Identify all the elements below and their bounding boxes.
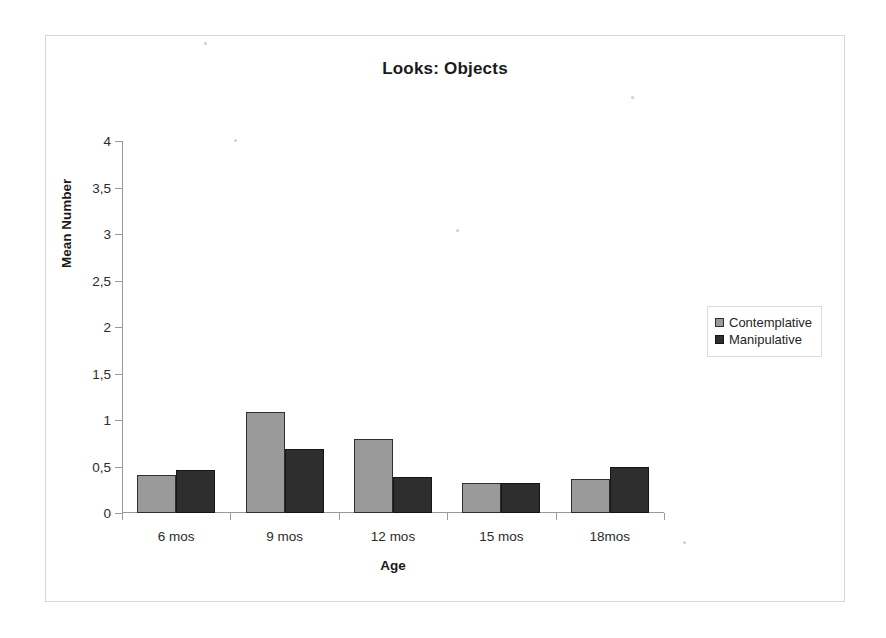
scan-speckle [204, 42, 207, 45]
x-axis-tick-label: 12 mos [371, 529, 415, 544]
y-axis-tick [115, 327, 122, 328]
bar [571, 479, 610, 513]
y-axis-tick-label: 1,5 [92, 366, 111, 381]
legend: ContemplativeManipulative [707, 306, 822, 357]
x-axis-tick [230, 513, 231, 520]
y-axis-tick [115, 281, 122, 282]
bar [246, 412, 285, 513]
scan-speckle [631, 96, 634, 99]
bar [501, 483, 540, 513]
y-axis-tick [115, 467, 122, 468]
legend-label: Manipulative [729, 332, 802, 347]
x-axis-tick [122, 513, 123, 520]
chart-title: Looks: Objects [46, 59, 844, 79]
y-axis-tick-label: 1 [103, 413, 111, 428]
x-axis-tick-label: 9 mos [266, 529, 303, 544]
y-axis-title: Mean Number [59, 179, 74, 268]
x-axis-tick [664, 513, 665, 520]
legend-swatch-icon [715, 335, 724, 344]
y-axis-tick-label: 2,5 [92, 273, 111, 288]
y-axis-tick-label: 3,5 [92, 180, 111, 195]
bar [285, 449, 324, 513]
scan-speckle [683, 541, 686, 544]
legend-swatch-icon [715, 318, 724, 327]
y-axis-tick [115, 420, 122, 421]
y-axis-tick [115, 234, 122, 235]
plot-area: 00,511,522,533,54 6 mos9 mos12 mos15 mos… [122, 141, 664, 513]
y-axis-tick [115, 374, 122, 375]
legend-item[interactable]: Contemplative [715, 315, 812, 330]
y-axis-tick-label: 2 [103, 320, 111, 335]
bar [610, 467, 649, 513]
y-axis-line [122, 141, 123, 513]
y-axis-tick [115, 188, 122, 189]
x-axis-tick-label: 18mos [590, 529, 631, 544]
legend-label: Contemplative [729, 315, 812, 330]
x-axis-tick [339, 513, 340, 520]
bar [354, 439, 393, 513]
y-axis-tick-label: 3 [103, 227, 111, 242]
x-axis-tick [447, 513, 448, 520]
y-axis-tick-label: 4 [103, 134, 111, 149]
bar [462, 483, 501, 513]
bar [393, 477, 432, 513]
bar [176, 470, 215, 513]
y-axis-tick [115, 141, 122, 142]
x-axis-title: Age [122, 558, 664, 573]
figure-frame: Looks: Objects 00,511,522,533,54 6 mos9 … [45, 35, 845, 602]
x-axis-tick [556, 513, 557, 520]
x-axis-tick-label: 15 mos [479, 529, 523, 544]
y-axis-tick-label: 0,5 [92, 459, 111, 474]
y-axis-tick [115, 513, 122, 514]
x-axis-tick-label: 6 mos [158, 529, 195, 544]
legend-item[interactable]: Manipulative [715, 332, 812, 347]
y-axis-tick-label: 0 [103, 506, 111, 521]
bar [137, 475, 176, 513]
